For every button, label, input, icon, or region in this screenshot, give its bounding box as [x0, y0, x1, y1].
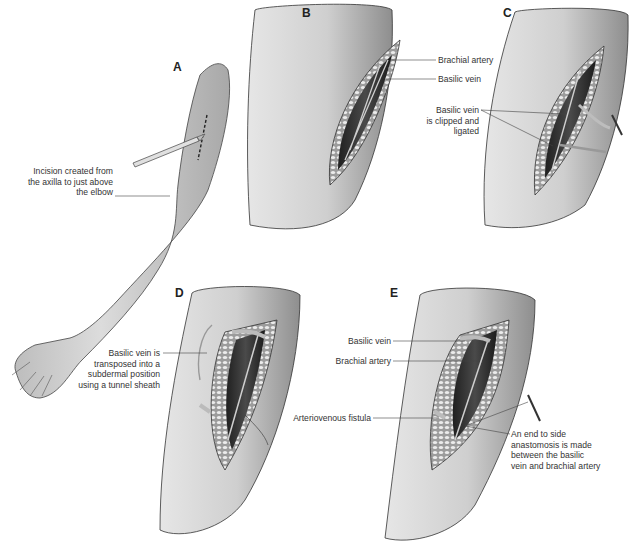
label-b-brachial-artery: Brachial artery: [438, 55, 493, 66]
panel-letter-b: B: [302, 6, 311, 20]
label-e-brachial-artery: Brachial artery: [320, 356, 391, 367]
label-c-clipped-ligated: Basilic vein is clipped and ligated: [395, 105, 479, 137]
panel-letter-e: E: [390, 286, 398, 300]
label-e-basilic-vein: Basilic vein: [330, 336, 391, 347]
label-d-transposed: Basilic vein is transposed into a subder…: [60, 348, 160, 390]
label-e-anastomosis: An end to side anastomosis is made betwe…: [511, 429, 600, 471]
panel-letter-a: A: [173, 60, 182, 74]
label-e-av-fistula: Arteriovenous fistula: [280, 413, 371, 424]
panel-d-illustration: [160, 287, 300, 534]
panel-e-illustration: [373, 288, 540, 540]
label-incision: Incision created from the axilla to just…: [8, 166, 113, 198]
label-b-basilic-vein: Basilic vein: [438, 74, 481, 85]
panel-letter-c: C: [503, 6, 512, 20]
panel-letter-d: D: [175, 286, 184, 300]
panel-c-illustration: [481, 8, 628, 227]
